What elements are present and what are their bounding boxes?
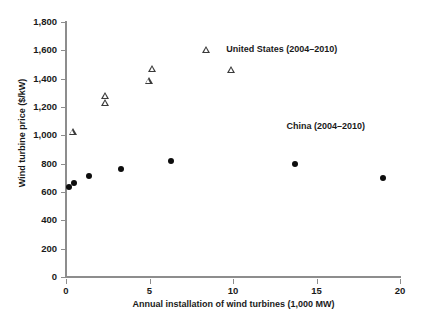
data-point-marker [202,46,210,53]
y-axis-tick-label: 0 [0,272,57,282]
y-axis-tick-label: 400 [0,215,57,225]
data-point-marker [168,158,174,164]
x-axis-tick-label: 20 [380,286,420,296]
y-axis-tick-label: 1,400 [0,74,57,84]
wind-turbine-price-scatter-chart: 02004006008001,0001,2001,4001,6001,800 0… [0,0,424,324]
x-axis-tick [400,279,401,284]
data-point-marker [118,166,124,172]
x-axis-tick-label: 15 [297,286,337,296]
y-axis-tick-label: 800 [0,159,57,169]
x-axis-tick [150,279,151,284]
y-axis-tick [61,277,66,278]
y-axis-tick-label: 1,000 [0,130,57,140]
x-axis-tick [233,279,234,284]
x-axis-tick-label: 10 [213,286,253,296]
data-point-marker [86,173,92,179]
y-axis-tick-label: 1,200 [0,102,57,112]
x-axis-title: Annual installation of wind turbines (1,… [66,299,401,309]
y-axis-title: Wind turbine price ($/kW) [17,33,27,233]
data-point-marker [292,161,298,167]
x-axis-tick-label: 0 [46,286,86,296]
x-axis-tick-label: 5 [130,286,170,296]
y-axis-tick-label: 1,800 [0,17,57,27]
series-label-china: China (2004–2010) [286,121,365,131]
y-axis-tick-label: 600 [0,187,57,197]
data-point-marker [69,128,77,135]
data-point-marker [148,65,156,72]
y-axis-tick-label: 1,600 [0,45,57,55]
series-label-united-states: United States (2004–2010) [226,44,337,54]
data-point-marker [145,77,153,84]
x-axis-tick [66,279,67,284]
data-point-marker [101,99,109,106]
x-axis-tick [317,279,318,284]
data-point-marker [227,66,235,73]
plot-area [66,22,400,277]
y-axis-tick-label: 200 [0,244,57,254]
